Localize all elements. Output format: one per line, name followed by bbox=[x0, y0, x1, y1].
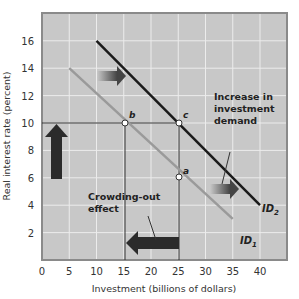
investment-demand-chart: 0510152025303540 246810121416 Investment… bbox=[0, 0, 299, 299]
point-c bbox=[176, 120, 182, 126]
x-tick-label: 30 bbox=[199, 266, 212, 277]
y-tick-label: 2 bbox=[28, 228, 34, 239]
x-tick-label: 35 bbox=[226, 266, 239, 277]
point-b bbox=[122, 120, 128, 126]
x-tick-label: 25 bbox=[172, 266, 185, 277]
y-tick-label: 12 bbox=[21, 91, 34, 102]
x-tick-label: 40 bbox=[254, 266, 267, 277]
x-axis-label: Investment (billions of dollars) bbox=[92, 283, 237, 294]
x-tick-label: 5 bbox=[66, 266, 72, 277]
point-c-label: c bbox=[183, 110, 189, 120]
y-axis-ticks: 246810121416 bbox=[21, 36, 34, 239]
y-tick-label: 10 bbox=[21, 118, 34, 129]
y-axis-label: Real interest rate (percent) bbox=[1, 71, 12, 200]
y-tick-label: 14 bbox=[21, 63, 34, 74]
x-tick-label: 10 bbox=[90, 266, 103, 277]
y-tick-label: 4 bbox=[28, 200, 34, 211]
y-tick-label: 6 bbox=[28, 173, 34, 184]
point-b-label: b bbox=[129, 110, 136, 120]
point-a-label: a bbox=[183, 166, 189, 176]
x-tick-label: 20 bbox=[145, 266, 158, 277]
y-tick-label: 16 bbox=[21, 36, 34, 47]
x-tick-label: 15 bbox=[117, 266, 130, 277]
x-tick-label: 0 bbox=[39, 266, 45, 277]
x-axis-ticks: 0510152025303540 bbox=[39, 266, 267, 277]
plot-area bbox=[42, 13, 287, 260]
point-a bbox=[176, 174, 182, 180]
y-tick-label: 8 bbox=[28, 145, 34, 156]
